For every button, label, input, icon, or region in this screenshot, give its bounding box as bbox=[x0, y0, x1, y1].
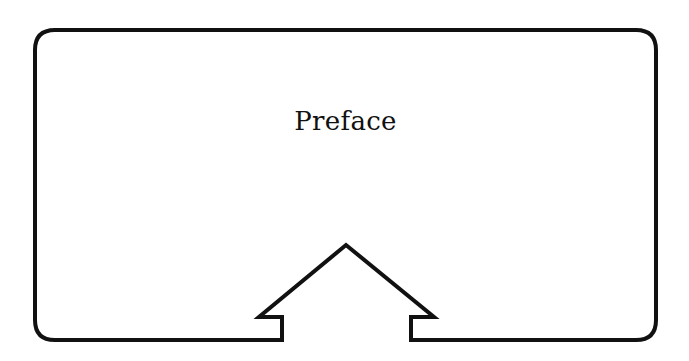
preface-frame bbox=[0, 0, 689, 361]
frame-outline-with-up-arrow bbox=[35, 30, 656, 340]
preface-title: Preface bbox=[0, 106, 689, 136]
